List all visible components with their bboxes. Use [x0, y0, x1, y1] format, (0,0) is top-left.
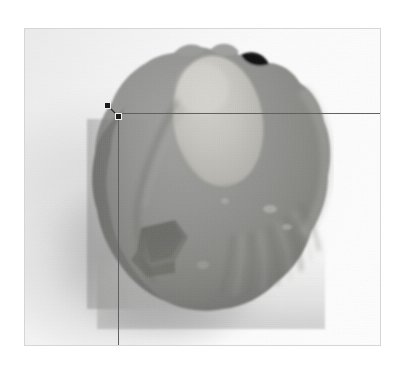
point-handle[interactable]	[115, 113, 122, 120]
vertical-guide[interactable]	[118, 113, 119, 345]
photo-frame[interactable]	[24, 28, 381, 346]
horizontal-guide[interactable]	[118, 113, 381, 114]
origin-handle[interactable]	[104, 102, 111, 109]
photo-canvas	[25, 29, 380, 345]
image-measurement-view	[0, 0, 399, 366]
